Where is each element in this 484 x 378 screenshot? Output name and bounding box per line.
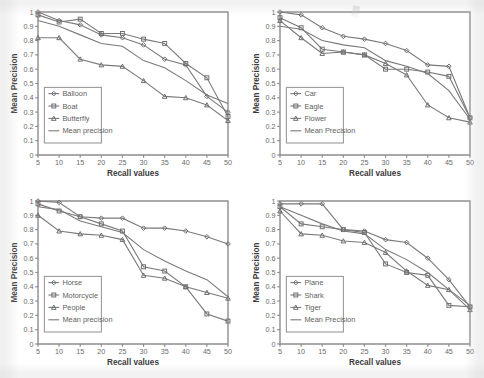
y-tick-label-7: 0.7 — [24, 50, 34, 59]
x-tick-label-4: 25 — [118, 158, 126, 167]
y-tick-label-4: 0.4 — [266, 282, 276, 291]
x-tick-label-8: 45 — [445, 347, 453, 356]
precision-recall-figure-grid: 00.10.20.30.40.50.60.70.80.9151015202530… — [0, 0, 484, 378]
series-horse — [36, 199, 231, 247]
x-tick-label-5: 30 — [382, 347, 390, 356]
x-tick-label-3: 20 — [339, 158, 347, 167]
x-tick-label-8: 45 — [203, 347, 211, 356]
legend-label-0: Car — [304, 89, 316, 98]
x-tick-label-8: 45 — [203, 158, 211, 167]
x-tick-label-6: 35 — [161, 347, 169, 356]
y-axis-title: Mean Precision — [10, 53, 19, 113]
y-tick-label-5: 0.5 — [24, 268, 34, 277]
legend-label-3: Mean Precision — [304, 315, 355, 324]
legend-label-0: Plane — [304, 278, 323, 287]
y-tick-label-10: 1 — [30, 8, 34, 17]
x-tick-label-1: 10 — [55, 347, 63, 356]
y-tick-label-8: 0.8 — [266, 36, 276, 45]
legend-label-2: Butterfly — [62, 114, 89, 123]
y-tick-label-2: 0.2 — [266, 311, 276, 320]
y-tick-label-10: 1 — [272, 8, 276, 17]
y-tick-label-0: 0 — [272, 151, 276, 160]
x-tick-label-1: 10 — [55, 158, 63, 167]
x-tick-label-2: 15 — [76, 347, 84, 356]
chart-panel-1: 00.10.20.30.40.50.60.70.80.9151015202530… — [0, 0, 242, 189]
x-tick-label-6: 35 — [161, 158, 169, 167]
y-tick-label-8: 0.8 — [24, 36, 34, 45]
legend-label-1: Eagle — [304, 102, 323, 111]
x-tick-label-5: 30 — [140, 158, 148, 167]
legend: BalloonBoatButterflyMean precision — [44, 87, 112, 143]
legend-label-3: Mean precision — [62, 126, 112, 135]
y-tick-label-3: 0.3 — [266, 297, 276, 306]
y-tick-label-2: 0.2 — [266, 122, 276, 131]
y-tick-label-9: 0.9 — [266, 211, 276, 220]
line-chart-3: 00.10.20.30.40.50.60.70.80.9151015202530… — [0, 189, 242, 378]
series-line-0 — [38, 201, 228, 244]
x-tick-label-1: 10 — [297, 347, 305, 356]
x-tick-label-9: 50 — [466, 158, 474, 167]
legend-label-0: Horse — [62, 278, 82, 287]
y-tick-label-6: 0.6 — [266, 65, 276, 74]
line-chart-4: 00.10.20.30.40.50.60.70.80.9151015202530… — [242, 189, 484, 378]
y-tick-label-7: 0.7 — [24, 239, 34, 248]
x-tick-label-7: 40 — [424, 158, 432, 167]
y-tick-label-4: 0.4 — [24, 93, 34, 102]
y-axis-title: Mean Precision — [252, 53, 261, 113]
y-tick-label-2: 0.2 — [24, 311, 34, 320]
y-tick-label-10: 1 — [30, 197, 34, 206]
y-tick-label-3: 0.3 — [24, 108, 34, 117]
x-tick-label-2: 15 — [318, 158, 326, 167]
legend: PlaneSharkTigerMean Precision — [286, 276, 355, 332]
x-axis-title: Recall values — [107, 358, 159, 367]
y-tick-label-9: 0.9 — [24, 22, 34, 31]
x-tick-label-7: 40 — [182, 347, 190, 356]
y-tick-label-3: 0.3 — [24, 297, 34, 306]
x-tick-label-4: 25 — [360, 158, 368, 167]
line-chart-2: 00.10.20.30.40.50.60.70.80.9151015202530… — [242, 0, 484, 189]
x-tick-label-0: 5 — [36, 347, 40, 356]
x-tick-label-0: 5 — [36, 158, 40, 167]
y-axis-title: Mean Precision — [10, 242, 19, 302]
legend-label-3: Mean precision — [62, 315, 112, 324]
legend-label-1: Motorcycle — [62, 291, 98, 300]
x-axis-title: Recall values — [107, 169, 159, 178]
x-tick-label-3: 20 — [97, 347, 105, 356]
y-tick-label-5: 0.5 — [266, 79, 276, 88]
y-tick-label-4: 0.4 — [24, 282, 34, 291]
x-tick-label-9: 50 — [224, 158, 232, 167]
x-axis-title: Recall values — [349, 169, 401, 178]
y-tick-label-7: 0.7 — [266, 50, 276, 59]
chart-panel-4: 00.10.20.30.40.50.60.70.80.9151015202530… — [242, 189, 484, 378]
y-tick-label-2: 0.2 — [24, 122, 34, 131]
x-tick-label-7: 40 — [424, 347, 432, 356]
y-tick-label-0: 0 — [30, 151, 34, 160]
chart-panel-3: 00.10.20.30.40.50.60.70.80.9151015202530… — [0, 189, 242, 378]
x-tick-label-1: 10 — [297, 158, 305, 167]
y-axis-title: Mean Precision — [252, 242, 261, 302]
legend-label-1: Shark — [304, 291, 324, 300]
chart-panel-2: 00.10.20.30.40.50.60.70.80.9151015202530… — [242, 0, 484, 189]
y-tick-label-1: 0.1 — [24, 325, 34, 334]
y-tick-label-9: 0.9 — [266, 22, 276, 31]
y-tick-label-6: 0.6 — [24, 65, 34, 74]
legend-label-2: Flower — [304, 114, 327, 123]
y-tick-label-5: 0.5 — [24, 79, 34, 88]
y-tick-label-0: 0 — [272, 340, 276, 349]
x-axis-title: Recall values — [349, 358, 401, 367]
x-tick-label-2: 15 — [318, 347, 326, 356]
x-tick-label-2: 15 — [76, 158, 84, 167]
y-tick-label-6: 0.6 — [24, 254, 34, 263]
y-tick-label-4: 0.4 — [266, 93, 276, 102]
x-tick-label-8: 45 — [445, 158, 453, 167]
y-tick-label-0: 0 — [30, 340, 34, 349]
x-tick-label-0: 5 — [278, 158, 282, 167]
x-tick-label-9: 50 — [224, 347, 232, 356]
x-tick-label-3: 20 — [97, 158, 105, 167]
x-tick-label-4: 25 — [118, 347, 126, 356]
y-tick-label-5: 0.5 — [266, 268, 276, 277]
x-tick-label-5: 30 — [140, 347, 148, 356]
y-tick-label-1: 0.1 — [24, 136, 34, 145]
x-tick-label-0: 5 — [278, 347, 282, 356]
legend-label-0: Balloon — [62, 89, 87, 98]
